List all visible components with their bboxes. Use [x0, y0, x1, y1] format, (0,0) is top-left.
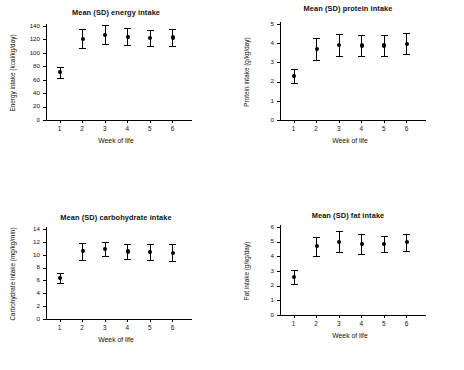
x-axis-tick-label: 1	[53, 126, 67, 132]
error-bar-cap-upper	[102, 25, 109, 26]
panel-fat-intake: Mean (SD) fat intake 0123456123456Fat in…	[232, 185, 464, 370]
x-axis-tick-label: 2	[309, 126, 323, 132]
x-axis-tick	[172, 319, 173, 322]
y-axis-tick	[43, 319, 46, 320]
data-point-marker	[103, 247, 107, 251]
y-axis-tick-label: 100	[14, 50, 40, 56]
data-point-marker	[337, 240, 341, 244]
x-axis-tick-label: 2	[309, 321, 323, 327]
x-axis-tick-label: 5	[377, 321, 391, 327]
data-point-marker	[382, 242, 386, 246]
x-axis-tick	[294, 315, 295, 318]
y-axis-tick-label: 0	[14, 316, 40, 322]
y-axis-tick-label: 60	[14, 77, 40, 83]
x-axis-tick-label: 3	[98, 126, 112, 132]
error-bar-cap-upper	[147, 244, 154, 245]
x-axis-tick-label: 2	[75, 126, 89, 132]
error-bar-cap-upper	[336, 34, 343, 35]
x-axis-tick	[316, 120, 317, 123]
error-bar-cap-upper	[313, 38, 320, 39]
data-point-marker	[58, 276, 62, 280]
y-axis-label: Protein intake (g/kg/day)	[244, 37, 250, 106]
x-axis-tick	[406, 120, 407, 123]
error-bar-cap-lower	[57, 283, 64, 284]
error-bar-cap-lower	[169, 261, 176, 262]
x-axis-tick-label: 6	[165, 325, 179, 331]
panel-carbohydrate-intake: Mean (SD) carbohydrate intake 0246810121…	[0, 185, 232, 370]
error-bar-cap-lower	[147, 260, 154, 261]
y-axis-label: Fat intake (g/kg/day)	[244, 242, 250, 300]
data-point-marker	[171, 35, 175, 39]
error-bar-cap-lower	[381, 252, 388, 253]
y-axis-tick	[277, 120, 280, 121]
data-point-marker	[126, 249, 130, 253]
plot-area-fat: 0123456123456Fat intake (g/kg/day)Week o…	[280, 227, 420, 315]
error-bar-cap-lower	[291, 83, 298, 84]
x-axis-tick	[127, 120, 128, 123]
error-bar-cap-upper	[57, 273, 64, 274]
error-bar-cap-lower	[403, 251, 410, 252]
data-point-marker	[58, 70, 62, 74]
y-axis-tick-label: 8	[14, 264, 40, 270]
data-point-marker	[148, 36, 152, 40]
error-bar-cap-upper	[79, 29, 86, 30]
error-bar-cap-upper	[57, 67, 64, 68]
x-axis-tick-label: 6	[399, 321, 413, 327]
data-point-marker	[81, 37, 85, 41]
x-axis-tick-label: 4	[120, 325, 134, 331]
error-bar-cap-upper	[291, 270, 298, 271]
y-axis-tick-label: 10	[14, 252, 40, 258]
error-bar-cap-lower	[102, 44, 109, 45]
y-axis-label: Energy intake (kcal/kg/day)	[10, 34, 16, 111]
data-point-marker	[315, 244, 319, 248]
y-axis-tick	[43, 120, 46, 121]
x-axis-line	[280, 315, 426, 316]
panel-title-protein: Mean (SD) protein intake	[232, 4, 464, 13]
x-axis-tick-label: 5	[143, 126, 157, 132]
error-bar-cap-lower	[79, 260, 86, 261]
y-axis-tick-label: 5	[248, 21, 274, 27]
data-series-energy	[46, 26, 186, 120]
y-axis-tick-label: 6	[14, 277, 40, 283]
y-axis-tick-label: 5	[248, 238, 274, 244]
y-axis-tick-label: 0	[14, 117, 40, 123]
x-axis-tick	[105, 120, 106, 123]
error-bar-cap-lower	[291, 284, 298, 285]
error-bar-cap-upper	[124, 28, 131, 29]
error-bar-cap-lower	[358, 254, 365, 255]
data-point-marker	[126, 35, 130, 39]
x-axis-line	[46, 120, 192, 121]
x-axis-tick-label: 5	[143, 325, 157, 331]
x-axis-tick-label: 5	[377, 126, 391, 132]
data-point-marker	[148, 250, 152, 254]
y-axis-tick-label: 2	[248, 78, 274, 84]
x-axis-label: Week of life	[46, 337, 186, 344]
error-bar-cap-lower	[57, 78, 64, 79]
x-axis-tick-label: 3	[332, 126, 346, 132]
x-axis-tick	[316, 315, 317, 318]
x-axis-label: Week of life	[280, 138, 420, 145]
error-bar-cap-upper	[381, 35, 388, 36]
x-axis-tick-label: 6	[399, 126, 413, 132]
data-series-carbohydrate	[46, 229, 186, 319]
y-axis-tick-label: 20	[14, 103, 40, 109]
panel-energy-intake: Mean (SD) energy intake 0204060801001201…	[0, 0, 232, 185]
y-axis-tick-label: 14	[14, 226, 40, 232]
x-axis-tick	[384, 315, 385, 318]
x-axis-tick	[339, 315, 340, 318]
error-bar-cap-upper	[169, 29, 176, 30]
data-point-marker	[292, 74, 296, 78]
error-bar-cap-lower	[403, 54, 410, 55]
x-axis-tick-label: 3	[98, 325, 112, 331]
error-bar-cap-upper	[313, 237, 320, 238]
x-axis-tick	[60, 120, 61, 123]
x-axis-tick	[60, 319, 61, 322]
data-point-marker	[337, 43, 341, 47]
x-axis-tick	[150, 319, 151, 322]
panel-protein-intake: Mean (SD) protein intake 012345123456Pro…	[232, 0, 464, 185]
data-point-marker	[315, 47, 319, 51]
error-bar-cap-upper	[381, 236, 388, 237]
x-axis-tick-label: 1	[287, 321, 301, 327]
y-axis-tick-label: 4	[14, 290, 40, 296]
data-point-marker	[81, 249, 85, 253]
